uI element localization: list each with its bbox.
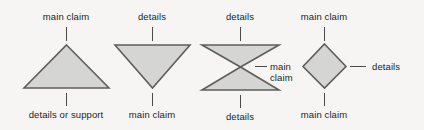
shape-diagram-figure: main claim details or support details ma… xyxy=(0,0,424,130)
hourglass-right-connector xyxy=(255,66,267,67)
hourglass-top-label: details xyxy=(226,11,254,22)
hourglass-bottom-connector xyxy=(240,95,241,108)
diamond-top-label: main claim xyxy=(301,11,347,22)
triangle-down-bottom-connector xyxy=(152,93,153,106)
triangle-up-shape xyxy=(22,43,111,90)
diamond-bottom-label: main claim xyxy=(301,109,347,120)
hourglass-shape xyxy=(200,43,281,92)
hourglass-right-label-line1: main xyxy=(270,61,291,72)
hourglass-right-label-line2: claim xyxy=(270,72,293,83)
hourglass-bottom-label: details xyxy=(226,111,254,122)
triangle-down-bottom-label: main claim xyxy=(129,109,175,120)
triangle-down-shape xyxy=(113,43,192,90)
triangle-up-top-label: main claim xyxy=(43,11,89,22)
hourglass-top-connector xyxy=(240,27,241,41)
triangle-up-bottom-label: details or support xyxy=(29,109,104,120)
diamond-right-label: details xyxy=(372,61,400,72)
triangle-up-top-connector xyxy=(66,27,67,41)
triangle-down-top-connector xyxy=(152,27,153,41)
diamond-top-connector xyxy=(324,27,325,41)
triangle-down-top-label: details xyxy=(138,11,166,22)
triangle-up-bottom-connector xyxy=(66,93,67,106)
diamond-shape xyxy=(301,42,348,90)
diamond-bottom-connector xyxy=(324,93,325,106)
diamond-right-connector xyxy=(350,66,366,67)
